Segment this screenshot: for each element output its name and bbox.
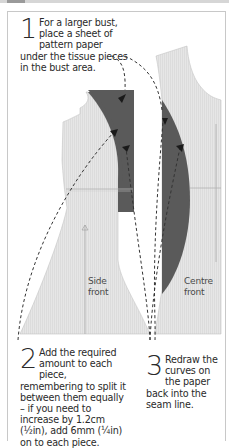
step-3: 3 Redraw the curves on the paper back in… (146, 354, 220, 410)
step-1: 1 For a larger bust, place a sheet of pa… (20, 17, 132, 73)
step-2-number: 2 (20, 348, 37, 370)
step-1-number: 1 (20, 18, 37, 40)
step-3-number: 3 (146, 355, 163, 377)
label-centre-front: Centre front (184, 276, 213, 298)
label-side-front: Side front (88, 276, 108, 298)
step-2: 2 Add the required amount to each piece,… (20, 347, 128, 448)
